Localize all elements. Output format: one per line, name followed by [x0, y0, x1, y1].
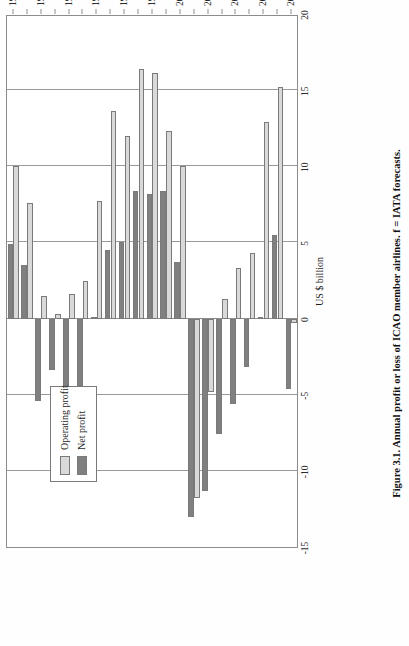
category-tick-label: 1992 [64, 0, 74, 6]
legend-swatch-net-profit-icon [77, 456, 87, 475]
figure-page: 20151050-5-10-15 US $ billion 1988199019… [0, 0, 409, 646]
bar-net-profit [77, 319, 83, 386]
bar-net-profit [147, 194, 153, 319]
value-tick-label: 0 [300, 317, 310, 322]
category-tick [249, 9, 250, 14]
bar-net-profit [91, 317, 97, 319]
bar-group [243, 16, 257, 547]
category-tick-label: 1990 [36, 0, 46, 6]
bar-operating-profit [27, 203, 33, 319]
bar-operating-profit [291, 319, 297, 324]
bar-net-profit [21, 265, 27, 318]
bar-net-profit [230, 319, 236, 404]
legend-item-net-profit: Net profit [73, 393, 90, 475]
bar-operating-profit [152, 73, 158, 318]
bar-operating-profit [278, 87, 284, 318]
category-tick [165, 9, 166, 14]
bar-operating-profit [55, 314, 61, 319]
category-tick-label: 2006 [258, 0, 268, 6]
category-tick [221, 9, 222, 14]
bar-group [257, 16, 271, 547]
bar-group [285, 16, 299, 547]
category-tick [96, 9, 97, 14]
category-tick [68, 9, 69, 14]
category-tick [263, 9, 264, 14]
category-tick [152, 9, 153, 14]
bar-net-profit [8, 244, 14, 319]
bar-group [104, 16, 118, 547]
value-tick-label: 5 [300, 241, 310, 246]
bar-group [21, 16, 35, 547]
category-tick [40, 9, 41, 14]
rotated-figure-container: 20151050-5-10-15 US $ billion 1988199019… [0, 0, 330, 600]
category-tick [110, 9, 111, 14]
category-tick-label: 1998 [147, 0, 157, 6]
bar-group [271, 16, 285, 547]
value-tick-label: 10 [300, 163, 310, 173]
bar-group [146, 16, 160, 547]
chart-legend: Operating profit Net profit [50, 386, 97, 482]
category-tick-label: 1994 [91, 0, 101, 6]
bar-net-profit [188, 319, 194, 517]
value-axis-title: US $ billion [314, 15, 325, 548]
chart-area: 20151050-5-10-15 US $ billion 1988199019… [0, 0, 330, 600]
bar-group [174, 16, 188, 547]
category-tick-label: 2000 [175, 0, 185, 6]
category-tick [277, 9, 278, 14]
bar-operating-profit [264, 122, 270, 318]
category-tick [207, 9, 208, 14]
bar-group [7, 16, 21, 547]
bar-operating-profit [69, 294, 75, 318]
category-tick [138, 9, 139, 14]
bar-net-profit [258, 317, 264, 319]
bar-operating-profit [97, 201, 103, 318]
bar-group [118, 16, 132, 547]
category-tick [179, 9, 180, 14]
bar-group [160, 16, 174, 547]
category-tick-label: 1996 [119, 0, 129, 6]
value-tick-label: -15 [300, 542, 310, 555]
bar-operating-profit [83, 281, 89, 319]
bar-operating-profit [194, 319, 200, 499]
bar-group [202, 16, 216, 547]
bar-net-profit [49, 319, 55, 371]
category-tick [12, 9, 13, 14]
bar-operating-profit [236, 268, 242, 318]
legend-item-operating-profit: Operating profit [56, 393, 73, 475]
bar-group [229, 16, 243, 547]
figure-caption-text: Figure 3.1. Annual profit or loss of ICA… [391, 149, 402, 498]
category-tick-label: 2008f [286, 0, 296, 6]
legend-label-operating-profit: Operating profit [59, 385, 70, 450]
bar-group [132, 16, 146, 547]
bar-net-profit [133, 191, 139, 319]
bar-operating-profit [125, 136, 131, 319]
category-tick [193, 9, 194, 14]
bar-net-profit [272, 235, 278, 319]
bar-net-profit [160, 191, 166, 319]
category-tick [82, 9, 83, 14]
category-tick [235, 9, 236, 14]
bar-operating-profit [166, 131, 172, 318]
bar-net-profit [174, 262, 180, 318]
bar-operating-profit [222, 299, 228, 319]
bar-operating-profit [111, 111, 117, 318]
bar-operating-profit [41, 296, 47, 319]
value-tick-label: 20 [300, 10, 310, 20]
bar-operating-profit [208, 319, 214, 392]
bar-net-profit [119, 242, 125, 318]
legend-label-net-profit: Net profit [76, 411, 87, 450]
value-tick-label: -5 [300, 392, 310, 400]
figure-caption: Figure 3.1. Annual profit or loss of ICA… [385, 0, 407, 646]
category-tick [26, 9, 27, 14]
bar-net-profit [105, 250, 111, 319]
bar-net-profit [202, 319, 208, 491]
category-tick-label: 1988 [8, 0, 18, 6]
bar-net-profit [244, 319, 250, 368]
legend-swatch-operating-profit-icon [60, 456, 70, 475]
bar-group [188, 16, 202, 547]
bar-net-profit [286, 319, 292, 389]
value-tick-label: 15 [300, 86, 310, 96]
bar-net-profit [35, 319, 41, 401]
bar-group [216, 16, 230, 547]
bar-operating-profit [250, 253, 256, 318]
